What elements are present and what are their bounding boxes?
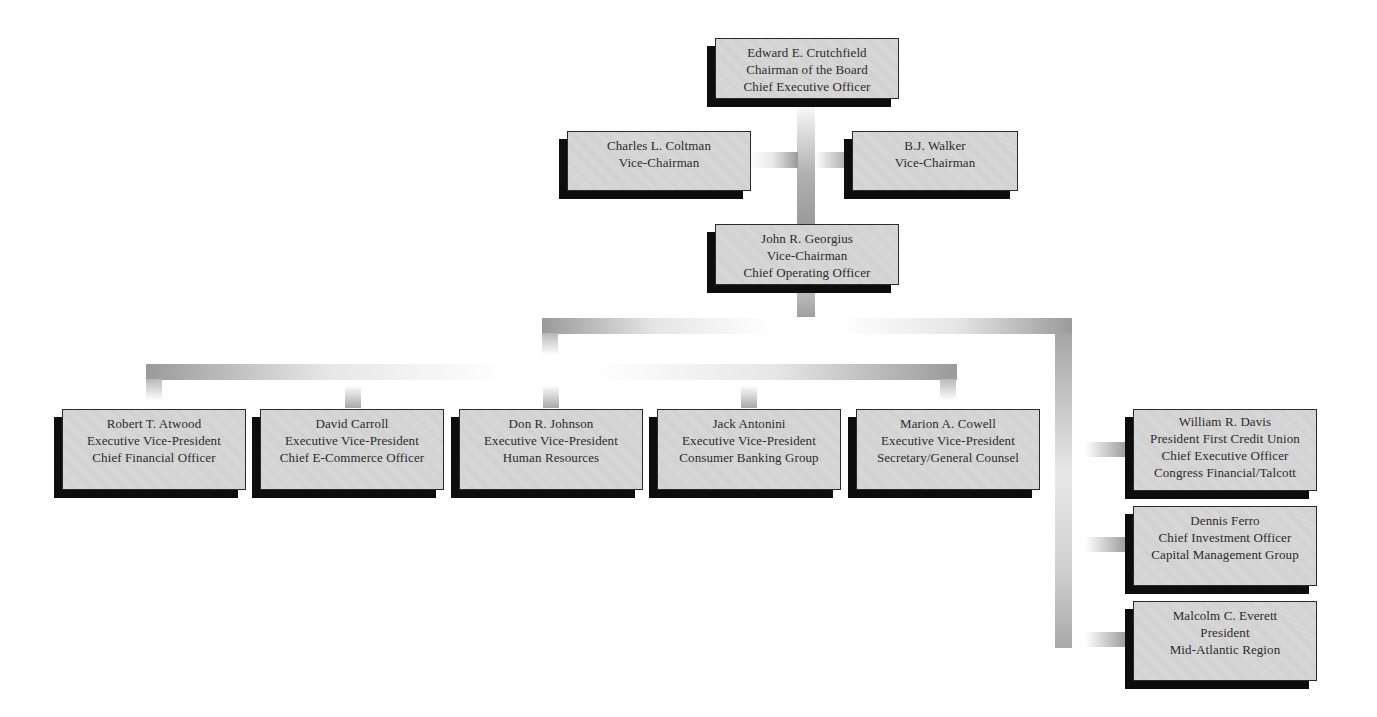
- connector-upper-bar-right: [840, 318, 1072, 334]
- connector-upper-left-drop: [542, 333, 558, 355]
- person-title: Secretary/General Counsel: [877, 449, 1019, 466]
- connector-drop-johnson: [543, 385, 559, 408]
- person-name: Edward E. Crutchfield: [747, 44, 866, 61]
- person-title: Consumer Banking Group: [679, 449, 818, 466]
- person-title: Chief E-Commerce Officer: [280, 449, 424, 466]
- connector-davis: [1085, 442, 1127, 457]
- box-face: Marion A. Cowell Executive Vice-Presiden…: [856, 409, 1040, 490]
- node-ferro: Dennis Ferro Chief Investment Officer Ca…: [1133, 506, 1317, 586]
- box-face: B.J. Walker Vice-Chairman: [852, 131, 1018, 191]
- box-face: Jack Antonini Executive Vice-President C…: [657, 409, 841, 490]
- box-face: Edward E. Crutchfield Chairman of the Bo…: [715, 38, 899, 99]
- box-face: Dennis Ferro Chief Investment Officer Ca…: [1133, 506, 1317, 586]
- connector-trunk-top: [797, 100, 815, 224]
- connector-drop-atwood: [146, 379, 162, 401]
- person-title: Executive Vice-President: [87, 432, 221, 449]
- person-title: Vice-Chairman: [895, 154, 976, 171]
- node-davis: William R. Davis President First Credit …: [1133, 409, 1317, 491]
- person-title: Chairman of the Board: [746, 61, 868, 78]
- person-title: Chief Operating Officer: [744, 264, 871, 281]
- connector-coltman: [750, 152, 798, 168]
- node-carroll: David Carroll Executive Vice-President C…: [260, 409, 444, 490]
- connector-ferro: [1085, 537, 1127, 552]
- box-face: Robert T. Atwood Executive Vice-Presiden…: [62, 409, 246, 490]
- person-name: David Carroll: [315, 415, 388, 432]
- person-title: Executive Vice-President: [881, 432, 1015, 449]
- person-title: Vice-Chairman: [619, 154, 700, 171]
- node-georgius: John R. Georgius Vice-Chairman Chief Ope…: [715, 224, 899, 285]
- connector-everett: [1085, 632, 1127, 647]
- connector-right-column: [1055, 333, 1072, 648]
- node-everett: Malcolm C. Everett President Mid-Atlanti…: [1133, 601, 1317, 681]
- box-face: Malcolm C. Everett President Mid-Atlanti…: [1133, 601, 1317, 681]
- person-name: B.J. Walker: [904, 137, 966, 154]
- person-title: Executive Vice-President: [682, 432, 816, 449]
- node-atwood: Robert T. Atwood Executive Vice-Presiden…: [62, 409, 246, 490]
- person-title: Executive Vice-President: [285, 432, 419, 449]
- person-title: President: [1200, 624, 1249, 641]
- connector-lower-bar-left: [146, 364, 506, 380]
- connector-drop-cowell: [940, 379, 956, 401]
- person-title: Chief Executive Officer: [1162, 447, 1289, 464]
- person-title: Chief Investment Officer: [1159, 529, 1292, 546]
- connector-upper-bar-left: [542, 318, 772, 334]
- node-crutchfield: Edward E. Crutchfield Chairman of the Bo…: [715, 38, 899, 99]
- connector-drop-carroll: [345, 385, 361, 408]
- person-name: Don R. Johnson: [509, 415, 594, 432]
- person-name: William R. Davis: [1179, 413, 1271, 430]
- person-title: Human Resources: [503, 449, 599, 466]
- person-title: President First Credit Union: [1150, 430, 1300, 447]
- node-johnson: Don R. Johnson Executive Vice-President …: [459, 409, 643, 490]
- person-title: Congress Financial/Talcott: [1154, 464, 1296, 481]
- node-coltman: Charles L. Coltman Vice-Chairman: [567, 131, 751, 191]
- person-name: Malcolm C. Everett: [1173, 607, 1278, 624]
- box-face: Charles L. Coltman Vice-Chairman: [567, 131, 751, 191]
- box-face: William R. Davis President First Credit …: [1133, 409, 1317, 491]
- person-name: Marion A. Cowell: [900, 415, 996, 432]
- connector-georgius-down: [797, 292, 815, 317]
- box-face: Don R. Johnson Executive Vice-President …: [459, 409, 643, 490]
- node-cowell: Marion A. Cowell Executive Vice-Presiden…: [856, 409, 1040, 490]
- person-name: Dennis Ferro: [1190, 512, 1259, 529]
- org-chart: Edward E. Crutchfield Chairman of the Bo…: [0, 0, 1377, 717]
- person-title: Chief Financial Officer: [92, 449, 215, 466]
- person-title: Mid-Atlantic Region: [1170, 641, 1281, 658]
- person-name: Robert T. Atwood: [107, 415, 202, 432]
- person-name: Jack Antonini: [712, 415, 785, 432]
- connector-drop-antonini: [741, 385, 757, 408]
- box-face: David Carroll Executive Vice-President C…: [260, 409, 444, 490]
- person-title: Capital Management Group: [1151, 546, 1299, 563]
- connector-lower-bar-right: [595, 364, 957, 380]
- person-title: Executive Vice-President: [484, 432, 618, 449]
- person-title: Vice-Chairman: [767, 247, 848, 264]
- node-antonini: Jack Antonini Executive Vice-President C…: [657, 409, 841, 490]
- person-title: Chief Executive Officer: [744, 78, 871, 95]
- person-name: Charles L. Coltman: [607, 137, 711, 154]
- box-face: John R. Georgius Vice-Chairman Chief Ope…: [715, 224, 899, 285]
- node-walker: B.J. Walker Vice-Chairman: [852, 131, 1018, 191]
- person-name: John R. Georgius: [761, 230, 853, 247]
